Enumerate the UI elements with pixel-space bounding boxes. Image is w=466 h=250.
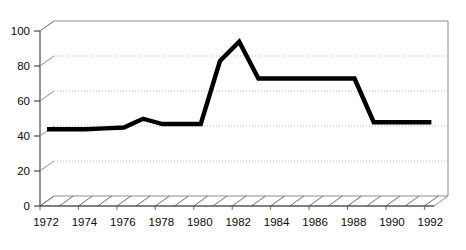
x-axis-tick-label: 1986 xyxy=(302,216,328,228)
y-axis-tick-label: 20 xyxy=(17,165,30,177)
y-axis-tick-marks xyxy=(34,21,54,206)
y-axis-labels: 020406080100 xyxy=(11,25,30,212)
y-depth-connector-80 xyxy=(40,56,54,66)
y-depth-connector-60 xyxy=(40,91,54,101)
chart-canvas: 020406080100 197219741976197819801982198… xyxy=(0,0,466,250)
y-axis-tick-label: 100 xyxy=(11,25,30,37)
line-chart-figure: 020406080100 197219741976197819801982198… xyxy=(0,0,466,250)
y-axis-tick-label: 40 xyxy=(17,130,30,142)
x-axis-tick-label: 1990 xyxy=(379,216,405,228)
y-axis-tick-label: 0 xyxy=(24,200,30,212)
chart-floor xyxy=(40,196,448,210)
y-depth-connector-20 xyxy=(40,161,54,171)
x-axis-tick-label: 1992 xyxy=(418,216,444,228)
x-axis-tick-label: 1982 xyxy=(225,216,251,228)
y-axis-tick-label: 60 xyxy=(17,95,30,107)
y-depth-connector-100 xyxy=(40,21,54,31)
x-axis-tick-label: 1980 xyxy=(187,216,213,228)
x-axis-tick-label: 1978 xyxy=(149,216,175,228)
x-axis-tick-label: 1988 xyxy=(341,216,367,228)
chart-back-wall xyxy=(54,21,448,196)
y-axis-tick-label: 80 xyxy=(17,60,30,72)
x-axis-tick-label: 1972 xyxy=(33,216,59,228)
x-axis-tick-label: 1974 xyxy=(72,216,98,228)
x-axis-labels: 1972197419761978198019821984198619881990… xyxy=(33,216,443,228)
x-axis-tick-label: 1976 xyxy=(110,216,136,228)
y-axis xyxy=(34,21,54,206)
x-axis-tick-label: 1984 xyxy=(264,216,290,228)
